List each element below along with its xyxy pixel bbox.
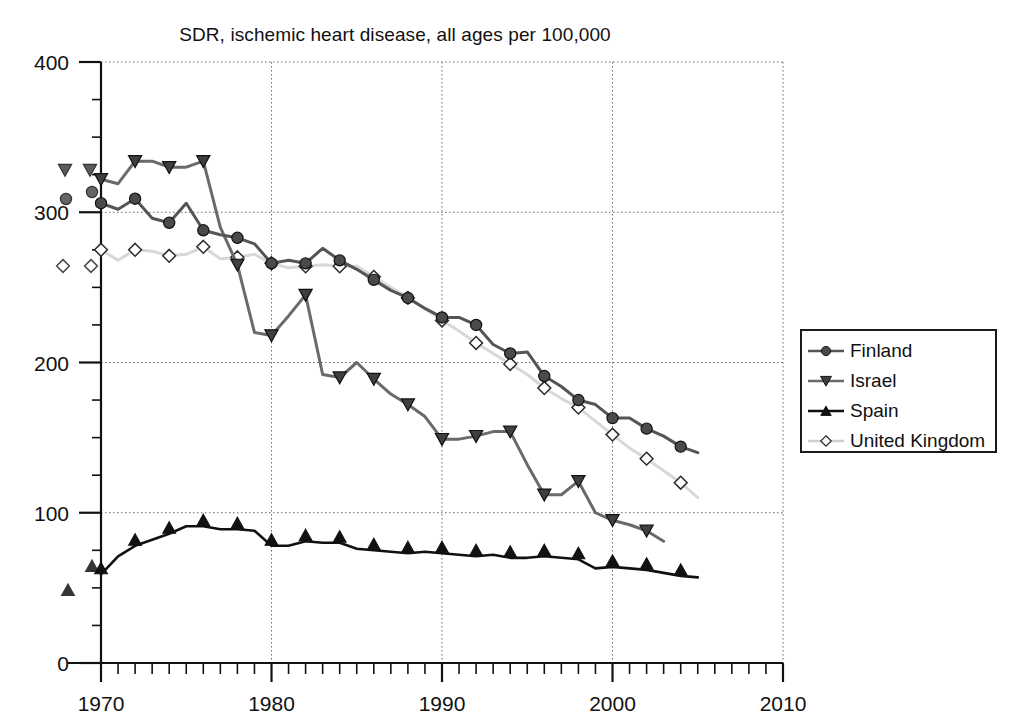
marker-circle	[164, 217, 175, 228]
marker-diamond	[57, 260, 70, 273]
marker-circle	[266, 258, 277, 269]
marker-circle	[130, 193, 141, 204]
series-united-kingdom	[95, 240, 698, 497]
chart-container: SDR, ischemic heart disease, all ages pe…	[0, 0, 1026, 727]
marker-circle	[368, 274, 379, 285]
marker-diamond	[821, 435, 831, 445]
legend-item-label: Finland	[850, 340, 912, 362]
marker-circle	[198, 225, 209, 236]
marker-triangle-up	[265, 534, 278, 546]
marker-triangle-up	[333, 531, 346, 543]
y-tick-label: 100	[34, 502, 69, 525]
marker-circle	[539, 370, 550, 381]
x-tick-label: 1980	[248, 692, 295, 715]
marker-circle	[821, 346, 830, 355]
marker-triangle-up	[231, 517, 244, 529]
legend-marker-icon	[802, 368, 850, 394]
marker-circle	[436, 312, 447, 323]
axes	[67, 62, 783, 682]
y-tick-label: 0	[57, 652, 69, 675]
series-israel	[94, 156, 663, 542]
marker-triangle-up	[470, 544, 483, 556]
marker-diamond	[85, 260, 98, 273]
y-tick-label: 200	[34, 352, 69, 375]
marker-circle	[402, 292, 413, 303]
marker-triangle-up	[197, 514, 210, 526]
margin-marker-artifacts	[57, 164, 99, 595]
legend-item-finland[interactable]: Finland	[802, 335, 995, 366]
marker-triangle-up	[504, 546, 517, 558]
marker-triangle-down	[231, 259, 244, 271]
marker-circle	[675, 441, 686, 452]
marker-triangle-up	[538, 544, 551, 556]
marker-circle	[95, 198, 106, 209]
series-line	[101, 526, 698, 577]
x-tick-label: 1970	[78, 692, 125, 715]
marker-circle	[505, 348, 516, 359]
legend-item-israel[interactable]: Israel	[802, 365, 995, 396]
marker-circle	[641, 423, 652, 434]
marker-triangle-up	[572, 547, 585, 559]
series-line	[101, 247, 698, 498]
marker-circle	[300, 258, 311, 269]
legend-item-label: Israel	[850, 370, 896, 392]
marker-triangle-up	[402, 541, 415, 553]
marker-circle	[334, 255, 345, 266]
legend-item-label: United Kingdom	[850, 430, 985, 452]
marker-circle	[60, 193, 71, 204]
marker-diamond	[163, 249, 176, 262]
chart-legend: FinlandIsraelSpainUnited Kingdom	[800, 329, 997, 453]
marker-circle	[232, 232, 243, 243]
marker-triangle-up	[62, 584, 75, 596]
y-tick-label: 400	[34, 51, 69, 74]
marker-triangle-up	[436, 541, 449, 553]
marker-triangle-up	[367, 538, 380, 550]
x-tick-label: 2000	[589, 692, 636, 715]
legend-marker-icon	[802, 428, 850, 454]
marker-circle	[573, 394, 584, 405]
marker-circle	[86, 186, 97, 197]
x-tick-label: 2010	[760, 692, 807, 715]
marker-triangle-up	[606, 555, 619, 567]
x-tick-label: 1990	[419, 692, 466, 715]
axis-tick-labels: 010020030040019701980199020002010	[34, 51, 806, 715]
marker-triangle-up	[674, 564, 687, 576]
marker-triangle-up	[299, 529, 312, 541]
marker-triangle-up	[129, 534, 142, 546]
marker-circle	[607, 412, 618, 423]
marker-triangle-up	[640, 558, 653, 570]
legend-item-spain[interactable]: Spain	[802, 395, 995, 426]
marker-triangle-up	[163, 522, 176, 534]
legend-item-united-kingdom[interactable]: United Kingdom	[802, 425, 995, 456]
legend-marker-icon	[802, 398, 850, 424]
marker-circle	[471, 319, 482, 330]
marker-triangle-down	[58, 164, 71, 176]
marker-triangle-up	[86, 560, 99, 572]
series-spain	[95, 514, 698, 577]
series-finland	[95, 193, 697, 453]
legend-marker-icon	[802, 338, 850, 364]
legend-item-label: Spain	[850, 400, 899, 422]
